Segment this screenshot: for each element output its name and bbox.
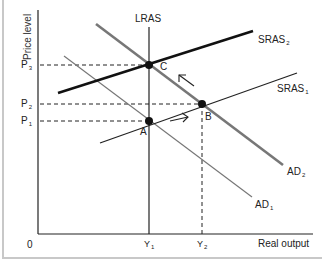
sras2-label-main: SRAS <box>258 34 285 45</box>
point-b-marker <box>198 100 206 108</box>
ad1-label-main: AD <box>255 199 269 210</box>
p3-label-main: P <box>21 59 28 70</box>
y2-label-main: Y <box>197 239 203 249</box>
ad2-curve <box>96 24 283 165</box>
sras1-curve <box>100 73 297 143</box>
y1-label-main: Y <box>144 239 150 249</box>
ad2-label-main: AD <box>287 166 301 177</box>
sras1-label: SRAS1 <box>277 84 309 95</box>
p2-label-sub: 2 <box>29 104 32 110</box>
sras2-curve <box>58 31 253 93</box>
p2-label-main: P <box>21 98 28 109</box>
p3-label-sub: 3 <box>29 65 32 71</box>
sras2-label-sub: 2 <box>286 40 289 46</box>
p1-label-sub: 1 <box>29 121 32 127</box>
point-a-marker <box>145 117 153 125</box>
sras1-label-sub: 1 <box>305 89 308 95</box>
point-a-label: A <box>140 127 147 137</box>
point-c-label: C <box>160 62 167 72</box>
y1-label-sub: 1 <box>151 244 154 250</box>
y2-label: Y2 <box>197 240 207 250</box>
y1-label: Y1 <box>144 240 154 250</box>
p1-label-main: P <box>21 115 28 126</box>
x-axis-label: Real output <box>258 239 309 249</box>
p1-label: P1 <box>21 116 32 127</box>
ad2-label-sub: 2 <box>302 172 305 178</box>
point-c-marker <box>145 61 153 69</box>
sras1-label-main: SRAS <box>277 83 304 94</box>
arrow-up-left-icon <box>179 75 194 86</box>
p3-label: P3 <box>21 60 32 71</box>
lras-label: LRAS <box>135 14 161 24</box>
ad1-label: AD1 <box>255 200 273 211</box>
ad2-label: AD2 <box>287 167 305 178</box>
y2-label-sub: 2 <box>204 244 207 250</box>
ad1-label-sub: 1 <box>270 205 273 211</box>
p2-label: P2 <box>21 99 32 110</box>
ad-as-diagram: Price level Real output 0 LRAS SRAS2 SRA… <box>0 0 327 260</box>
y-axis-label: Price level <box>22 14 33 60</box>
point-b-label: B <box>205 112 212 122</box>
ad1-curve <box>64 56 252 197</box>
sras2-label: SRAS2 <box>258 35 290 46</box>
origin-label: 0 <box>27 240 33 250</box>
